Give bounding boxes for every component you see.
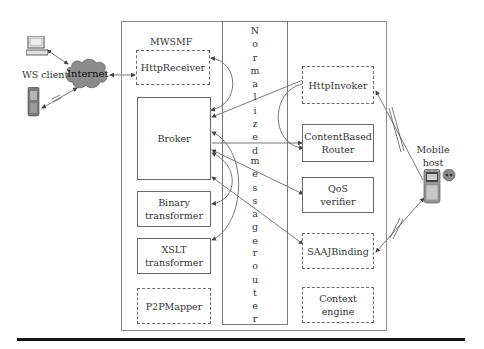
broker-box: Broker [137,97,211,180]
mobile-host-label: Mobile host [410,142,456,170]
http-receiver-box: HttpReceiver [136,50,210,85]
binary-transformer-box: Binary transformer [137,191,211,227]
qos-verifier-box: QoS verifier [302,177,374,213]
context-engine-box: Context engine [302,287,374,323]
http-invoker-box: HttpInvoker [302,66,374,104]
router-label-router: r o u t e r [248,246,262,326]
router-label-message: m e s s a g e [248,154,262,247]
ws-client-label: WS client [22,69,68,80]
xslt-transformer-box: XSLT transformer [137,238,211,274]
pda-device-icon [27,87,40,117]
mwsmf-label: MWSMF [150,36,192,47]
bottom-rule [17,338,465,341]
internet-label: Internet [67,68,108,79]
content-based-router-box: ContentBased Router [302,124,374,162]
p2p-mapper-box: P2PMapper [137,288,211,324]
desktop-computer-icon [26,36,48,56]
router-label-normalized: N o r m a l i z e d [248,24,262,157]
saaj-binding-box: SAAJBinding [302,233,374,269]
mobile-phone-icon [423,169,459,205]
